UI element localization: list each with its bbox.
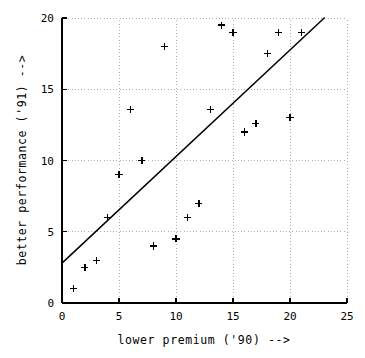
data-point-marker (127, 106, 134, 113)
x-axis-title: lower premium ('90) --> (117, 333, 290, 347)
data-point-marker (218, 22, 225, 29)
data-point-marker (93, 257, 100, 264)
x-tick-label: 20 (283, 310, 296, 323)
data-points (70, 22, 305, 293)
y-axis-title: better performance ('91) --> (15, 55, 29, 266)
y-tick-label: 15 (41, 83, 54, 96)
data-point-marker (115, 171, 122, 178)
x-tick-label: 10 (169, 310, 182, 323)
data-point-marker (150, 242, 157, 249)
x-tick-label: 15 (226, 310, 239, 323)
tick-marks (62, 18, 347, 303)
data-point-marker (138, 157, 145, 164)
data-point-marker (104, 214, 111, 221)
y-tick-label: 5 (47, 226, 54, 239)
trend-line (62, 18, 324, 263)
data-point-marker (229, 29, 236, 36)
data-point-marker (195, 200, 202, 207)
x-tick-label: 0 (59, 310, 66, 323)
y-tick-label: 0 (47, 297, 54, 310)
gridlines (62, 18, 347, 303)
data-point-marker (264, 50, 271, 57)
data-point-marker (298, 29, 305, 36)
data-point-marker (286, 114, 293, 121)
axes (62, 18, 347, 303)
trend-line-segment (62, 18, 324, 263)
y-tick-label: 20 (41, 12, 54, 25)
data-point-marker (275, 29, 282, 36)
data-point-marker (241, 128, 248, 135)
y-tick-labels: 05101520 (41, 12, 54, 310)
data-point-marker (252, 120, 259, 127)
scatter-plot-figure: 0510152025 05101520 lower premium ('90) … (0, 0, 365, 358)
data-point-marker (70, 285, 77, 292)
x-tick-labels: 0510152025 (59, 310, 354, 323)
data-point-marker (81, 264, 88, 271)
x-tick-label: 5 (116, 310, 123, 323)
data-point-marker (161, 43, 168, 50)
plot-canvas: 0510152025 05101520 lower premium ('90) … (0, 0, 365, 358)
x-tick-label: 25 (340, 310, 353, 323)
data-point-marker (184, 214, 191, 221)
y-tick-label: 10 (41, 155, 54, 168)
data-point-marker (172, 235, 179, 242)
data-point-marker (207, 106, 214, 113)
